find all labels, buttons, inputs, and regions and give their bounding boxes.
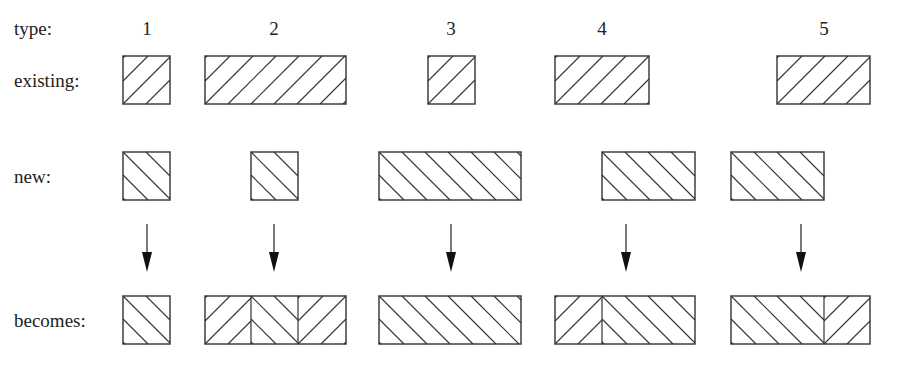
hatch-line xyxy=(123,296,170,343)
hatch-line xyxy=(824,298,870,344)
hatch-line xyxy=(494,296,521,323)
hatch-line xyxy=(251,56,299,104)
hatch-line xyxy=(298,296,346,344)
hatch-line xyxy=(777,56,802,81)
box-outline xyxy=(555,296,695,344)
hatch-line xyxy=(298,296,323,321)
type-label-5: 5 xyxy=(819,18,829,39)
hatch-line xyxy=(731,175,756,200)
hatch-line xyxy=(123,175,148,200)
down-arrow-icon xyxy=(269,224,279,272)
hatch-line xyxy=(671,152,695,176)
hatch-line xyxy=(228,321,251,344)
hatch-line xyxy=(448,296,496,344)
hatch-line xyxy=(494,152,521,179)
hatch-line xyxy=(471,152,519,200)
hatch-line xyxy=(754,296,802,344)
result-block-type-3 xyxy=(379,296,521,344)
hatch-line xyxy=(602,319,627,344)
box-outline xyxy=(379,152,521,200)
hatch-line xyxy=(731,152,779,200)
hatch-line xyxy=(123,152,170,199)
hatch-line xyxy=(555,56,580,81)
hatch-line xyxy=(251,296,298,343)
existing-block-type-2 xyxy=(205,56,346,104)
hatch-line xyxy=(602,296,650,344)
result-block-type-5 xyxy=(731,296,870,344)
hatch-line xyxy=(320,78,346,104)
new-block-type-5 xyxy=(731,152,824,200)
hatch-line xyxy=(625,152,673,200)
hatch-line xyxy=(731,296,779,344)
hatch-line xyxy=(402,296,450,344)
hatch-line xyxy=(448,152,496,200)
hatch-line xyxy=(777,152,824,199)
result-block-type-4 xyxy=(555,296,695,344)
hatch-line xyxy=(471,296,519,344)
segment-new xyxy=(251,296,298,344)
hatch-line xyxy=(451,80,475,104)
hatch-line xyxy=(648,152,695,199)
hatch-line xyxy=(555,296,580,321)
hatch-line xyxy=(823,57,870,104)
new-block-type-2 xyxy=(251,152,298,200)
hatch-line xyxy=(800,56,848,104)
hatch-line xyxy=(846,80,870,104)
hatch-line xyxy=(123,56,148,81)
box-outline xyxy=(379,296,521,344)
hatch-line xyxy=(824,296,849,321)
hatch-line xyxy=(205,56,230,81)
row-label-new: new: xyxy=(14,166,51,187)
hatch-line xyxy=(578,320,602,344)
new-block-type-4 xyxy=(602,152,695,200)
hatch-line xyxy=(205,56,253,104)
hatch-line xyxy=(379,175,404,200)
type-label-4: 4 xyxy=(597,18,607,39)
row-label-becomes: becomes: xyxy=(14,310,86,331)
segment-existing xyxy=(824,296,870,344)
hatch-line xyxy=(428,56,453,81)
segment-new xyxy=(602,296,695,344)
hatch-line xyxy=(402,152,450,200)
new-block-type-3 xyxy=(379,152,521,200)
row-label-type: type: xyxy=(14,18,52,39)
merge-types-diagram: type: existing: new: becomes: 1 2 3 4 5 xyxy=(0,0,898,366)
down-arrow-icon xyxy=(621,224,631,272)
hatch-line xyxy=(731,319,756,344)
hatch-line xyxy=(379,152,427,200)
hatch-line xyxy=(602,152,650,200)
type-number-labels: 1 2 3 4 5 xyxy=(142,18,829,39)
hatch-line xyxy=(624,79,649,104)
hatch-line xyxy=(251,152,298,199)
existing-row xyxy=(123,56,870,104)
hatch-line xyxy=(274,56,322,104)
type-label-1: 1 xyxy=(142,18,152,39)
hatch-line xyxy=(648,296,695,343)
hatch-line xyxy=(555,297,602,344)
down-arrow-icon xyxy=(796,224,806,272)
row-label-existing: existing: xyxy=(14,70,79,91)
hatch-line xyxy=(425,152,473,200)
hatch-line xyxy=(123,57,170,104)
existing-block-type-5 xyxy=(777,56,870,104)
segment-existing xyxy=(555,296,602,344)
arrow-row xyxy=(142,224,806,272)
segment-existing xyxy=(298,296,346,344)
hatch-line xyxy=(228,56,276,104)
segment-new xyxy=(379,296,521,344)
hatch-line xyxy=(251,319,276,344)
hatch-line xyxy=(379,296,427,344)
segment-existing xyxy=(205,296,251,344)
type-label-3: 3 xyxy=(446,18,456,39)
hatch-line xyxy=(555,56,603,104)
hatch-line xyxy=(297,56,345,104)
segment-new xyxy=(731,296,824,344)
hatch-line xyxy=(800,152,824,176)
result-block-type-2 xyxy=(205,296,346,344)
hatch-line xyxy=(146,296,170,320)
hatch-line xyxy=(146,152,170,176)
hatch-line xyxy=(146,80,170,104)
existing-block-type-1 xyxy=(123,56,170,104)
new-block-type-1 xyxy=(123,152,170,200)
new-row xyxy=(123,152,824,200)
